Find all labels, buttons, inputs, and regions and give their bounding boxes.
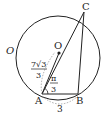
point-label-a: A — [34, 95, 43, 106]
angle-numerator: π — [51, 74, 56, 83]
center-label: O — [54, 40, 62, 51]
center-point-o — [57, 51, 60, 54]
ab-length-label: 3 — [57, 104, 63, 114]
segment-bc — [78, 12, 84, 94]
circle-o — [16, 16, 100, 100]
segment-ac — [42, 12, 84, 94]
geometry-diagram: O O C A B 7√3 3 π 3 3 — [0, 0, 111, 118]
circle-label: O — [6, 45, 14, 56]
ao-length-numerator: 7√3 — [31, 60, 46, 69]
angle-arc-a — [45, 89, 48, 95]
point-label-b: B — [76, 95, 83, 106]
angle-denominator: 3 — [51, 85, 56, 94]
ao-length-denominator: 3 — [36, 71, 41, 80]
point-label-c: C — [82, 1, 90, 12]
